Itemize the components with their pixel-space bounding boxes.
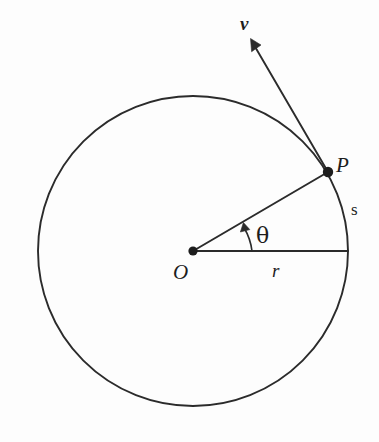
label-point-p: P: [336, 155, 349, 176]
center-point-dot: [188, 246, 197, 255]
label-angle-theta: θ: [256, 225, 269, 247]
angle-arc-arrowhead: [240, 223, 249, 233]
figure-canvas: [0, 0, 379, 442]
label-arc-length-s: s: [351, 201, 358, 218]
label-center-o: O: [173, 262, 188, 283]
circular-motion-figure: P O r s θ v: [0, 0, 379, 442]
point-p-dot: [323, 167, 333, 177]
label-radius-r: r: [272, 261, 279, 280]
velocity-vector-line: [254, 45, 328, 172]
angle-theta-arc: [244, 228, 252, 251]
label-velocity-v: v: [240, 14, 248, 33]
